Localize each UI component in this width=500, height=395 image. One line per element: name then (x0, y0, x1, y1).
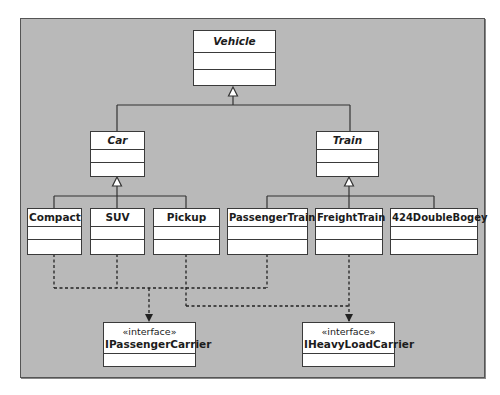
operations-compartment (228, 240, 307, 254)
stereotype-label: «interface» (304, 326, 393, 338)
interface-header: «interface» IPassengerCarrier (104, 323, 195, 354)
interface-name: IHeavyLoadCarrier (304, 338, 393, 351)
interface-passenger-carrier[interactable]: «interface» IPassengerCarrier (103, 322, 196, 367)
operations-compartment (194, 70, 275, 85)
interface-name: IPassengerCarrier (105, 338, 194, 351)
attributes-compartment (317, 150, 378, 163)
class-424-double-bogey[interactable]: 424DoubleBogey (390, 208, 478, 255)
attributes-compartment (391, 227, 477, 240)
stereotype-label: «interface» (105, 326, 194, 338)
operations-compartment (391, 240, 477, 254)
operations-compartment (316, 240, 382, 254)
class-name: Pickup (154, 209, 219, 227)
class-freight-train[interactable]: FreightTrain (315, 208, 383, 255)
class-name: FreightTrain (316, 209, 382, 227)
class-pickup[interactable]: Pickup (153, 208, 220, 255)
class-name: SUV (91, 209, 144, 227)
attributes-compartment (91, 227, 144, 240)
class-name: PassengerTrain (228, 209, 307, 227)
attributes-compartment (28, 227, 81, 240)
attributes-compartment (316, 227, 382, 240)
class-train[interactable]: Train (316, 131, 379, 177)
attributes-compartment (194, 53, 275, 70)
operations-compartment (303, 354, 394, 366)
class-name: Compact (28, 209, 81, 227)
operations-compartment (91, 240, 144, 254)
class-passenger-train[interactable]: PassengerTrain (227, 208, 308, 255)
class-name: Vehicle (194, 31, 275, 53)
attributes-compartment (154, 227, 219, 240)
operations-compartment (104, 354, 195, 366)
class-suv[interactable]: SUV (90, 208, 145, 255)
class-car[interactable]: Car (90, 131, 145, 177)
attributes-compartment (91, 150, 144, 163)
operations-compartment (317, 163, 378, 176)
class-name: 424DoubleBogey (391, 209, 477, 227)
interface-header: «interface» IHeavyLoadCarrier (303, 323, 394, 354)
operations-compartment (154, 240, 219, 254)
class-compact[interactable]: Compact (27, 208, 82, 255)
interface-heavy-load-carrier[interactable]: «interface» IHeavyLoadCarrier (302, 322, 395, 367)
class-name: Car (91, 132, 144, 150)
class-name: Train (317, 132, 378, 150)
attributes-compartment (228, 227, 307, 240)
operations-compartment (28, 240, 81, 254)
class-vehicle[interactable]: Vehicle (193, 30, 276, 86)
operations-compartment (91, 163, 144, 176)
